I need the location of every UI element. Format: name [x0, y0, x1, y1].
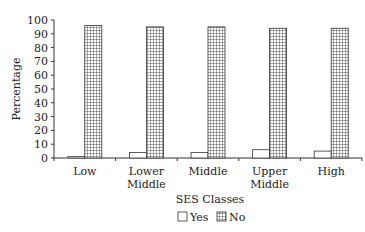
- x-tick-label: Low: [73, 165, 97, 178]
- bars: [68, 26, 348, 158]
- y-tick-label: 20: [34, 124, 48, 137]
- y-tick-label: 0: [41, 152, 48, 165]
- y-tick-label: 90: [34, 28, 48, 41]
- legend-label-yes: Yes: [189, 211, 209, 224]
- x-axis-title: SES Classes: [176, 193, 245, 206]
- y-tick-label: 80: [34, 42, 48, 55]
- y-tick-label: 60: [34, 69, 48, 82]
- legend-swatch-yes: [178, 212, 187, 221]
- bar-no: [208, 27, 225, 158]
- y-tick-label: 30: [34, 111, 48, 124]
- bar-yes: [314, 151, 331, 158]
- x-axis: [54, 158, 362, 161]
- x-tick-label: Middle: [189, 165, 228, 178]
- y-tick-label: 10: [34, 138, 48, 151]
- legend-swatch-no: [217, 212, 226, 221]
- y-tick-label: 70: [34, 55, 48, 68]
- y-tick-label: 50: [34, 83, 48, 96]
- y-tick-label: 40: [34, 97, 48, 110]
- y-tick-label: 100: [27, 14, 48, 27]
- bar-no: [85, 26, 102, 158]
- y-axis-title: Percentage: [10, 58, 23, 121]
- bar-no: [331, 28, 348, 158]
- bar-yes: [253, 150, 270, 158]
- bar-no: [146, 27, 163, 158]
- bar-yes: [68, 157, 85, 158]
- bar-no: [270, 28, 287, 158]
- bar-yes: [191, 152, 208, 158]
- x-tick-label: Upper: [252, 165, 288, 178]
- bar-yes: [129, 152, 146, 158]
- x-tick-label: Lower: [129, 165, 165, 178]
- category-labels: LowLowerMiddleMiddleUpperMiddleHigh: [73, 165, 345, 191]
- x-tick-label: High: [318, 165, 345, 178]
- legend: YesNo: [178, 211, 246, 224]
- legend-label-no: No: [229, 211, 246, 224]
- bar-chart: 0102030405060708090100 LowLowerMiddleMid…: [0, 0, 365, 232]
- x-tick-label: Middle: [127, 178, 166, 191]
- y-axis: 0102030405060708090100: [27, 14, 54, 165]
- x-tick-label: Middle: [250, 178, 289, 191]
